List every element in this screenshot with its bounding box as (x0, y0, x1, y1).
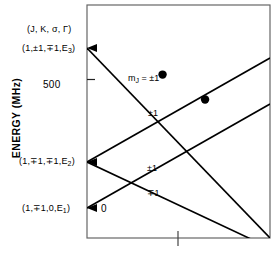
line-mj-pm1-descending (87, 48, 270, 238)
arrow-head-E3 (87, 44, 97, 52)
level-crossing-dot-2 (201, 95, 209, 103)
plot-canvas (0, 0, 279, 257)
level-lines (87, 48, 270, 248)
energy-level-figure: ENERGY (MHz) 500 (J, K, σ, Γ) (1,±1,∓1,E… (0, 0, 279, 257)
level-crossing-dot-1 (158, 70, 166, 78)
line-E1-ascending (87, 104, 270, 208)
line-E2-ascending (87, 58, 270, 162)
plot-frame (87, 5, 270, 238)
